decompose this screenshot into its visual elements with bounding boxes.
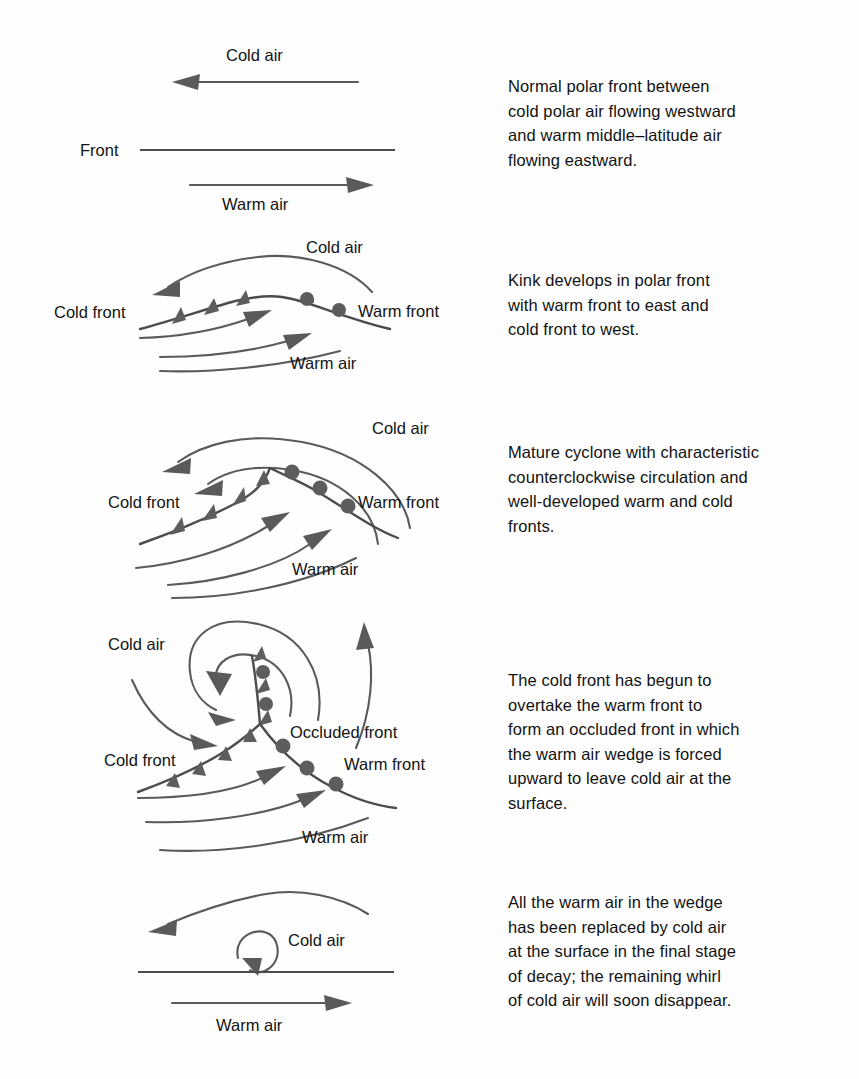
residual-whirl-icon	[237, 931, 277, 976]
stage-2-diagram: Cold air Cold front Warm front Warm air	[0, 225, 500, 390]
label-cold-front: Cold front	[108, 493, 180, 511]
stage-5-decay: Cold air Warm air All the warm air in th…	[0, 866, 859, 1041]
warm-air-arrow-icon	[190, 177, 374, 193]
label-cold-air: Cold air	[288, 931, 345, 949]
warm-air-streamline-upper	[138, 766, 286, 798]
stage-4-diagram: Cold air Cold front Occluded front Warm …	[0, 600, 500, 862]
label-occluded-front: Occluded front	[290, 723, 398, 741]
label-cold-air: Cold air	[108, 635, 165, 653]
cold-air-inflow-arrow-icon	[132, 680, 218, 750]
label-warm-air: Warm air	[290, 354, 357, 372]
warm-front-bumps-icon	[276, 739, 344, 792]
warm-front-bumps-icon	[285, 465, 356, 514]
warm-air-streamline-upper	[136, 512, 290, 568]
label-warm-air: Warm air	[302, 828, 369, 846]
label-cold-air: Cold air	[372, 419, 429, 437]
stage-2-kink-develops: Cold air Cold front Warm front Warm air …	[0, 225, 859, 390]
warm-air-arrow-icon	[172, 995, 352, 1011]
label-cold-air: Cold air	[306, 238, 363, 256]
stage-4-caption: The cold front has begun to overtake the…	[508, 668, 848, 815]
warm-front-bumps-icon	[300, 292, 346, 317]
label-warm-air: Warm air	[292, 560, 359, 578]
label-warm-air: Warm air	[216, 1016, 283, 1034]
label-warm-front: Warm front	[344, 755, 425, 773]
cold-air-streamline	[148, 892, 368, 936]
cold-air-arrow-icon	[172, 74, 358, 90]
label-warm-front: Warm front	[358, 302, 439, 320]
warm-air-streamline-lower	[146, 790, 326, 822]
stage-1-diagram: Cold air Front Warm air	[0, 30, 500, 215]
cold-front-barbs-icon	[170, 470, 270, 535]
label-cold-air: Cold air	[226, 46, 283, 64]
label-cold-front: Cold front	[54, 303, 126, 321]
stage-3-mature-cyclone: Cold air Cold front Warm front Warm air …	[0, 398, 859, 598]
cyclonic-spiral-inner	[206, 654, 291, 716]
stage-4-occlusion: Cold air Cold front Occluded front Warm …	[0, 600, 859, 862]
label-front: Front	[80, 141, 119, 159]
label-cold-front: Cold front	[104, 751, 176, 769]
stage-2-caption: Kink develops in polar front with warm f…	[508, 268, 848, 342]
stage-5-caption: All the warm air in the wedge has been r…	[508, 890, 848, 1013]
stage-1-caption: Normal polar front between cold polar ai…	[508, 74, 848, 172]
stage-1-normal-polar-front: Cold air Front Warm air Normal polar fro…	[0, 30, 859, 215]
label-warm-front: Warm front	[358, 493, 439, 511]
stage-3-diagram: Cold air Cold front Warm front Warm air	[0, 398, 500, 598]
figure-page: Cold air Front Warm air Normal polar fro…	[0, 0, 859, 1079]
cold-air-streamline	[152, 256, 372, 297]
stage-5-diagram: Cold air Warm air	[0, 866, 500, 1041]
stage-3-caption: Mature cyclone with characteristic count…	[508, 440, 848, 538]
cold-front-barbs-icon	[172, 290, 250, 324]
label-warm-air: Warm air	[222, 195, 289, 213]
